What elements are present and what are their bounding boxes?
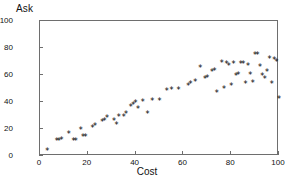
data-point xyxy=(151,99,154,102)
data-point xyxy=(275,60,278,63)
y-tick-mark xyxy=(39,155,43,156)
data-point xyxy=(136,107,139,110)
data-point xyxy=(46,149,49,152)
y-tick-label: 60 xyxy=(0,70,13,79)
data-point xyxy=(232,63,235,66)
data-point xyxy=(74,140,77,143)
data-point xyxy=(115,123,118,126)
x-tick-mark xyxy=(135,151,136,155)
y-tick-label: 100 xyxy=(0,16,13,25)
data-point xyxy=(141,101,144,104)
x-tick-label: 100 xyxy=(263,158,293,167)
data-point xyxy=(213,69,216,72)
data-point xyxy=(230,84,233,87)
data-point xyxy=(93,125,96,128)
data-point xyxy=(170,88,173,91)
data-point xyxy=(249,74,252,77)
data-point xyxy=(206,76,209,79)
x-tick-label: 60 xyxy=(167,158,197,167)
data-point xyxy=(242,63,245,66)
data-point xyxy=(165,90,168,93)
y-tick-label: 20 xyxy=(0,124,13,133)
x-tick-label: 80 xyxy=(215,158,245,167)
data-point xyxy=(237,74,240,77)
data-point xyxy=(177,88,180,91)
data-point xyxy=(263,78,266,81)
y-tick-mark xyxy=(39,128,43,129)
data-point xyxy=(67,133,70,136)
data-point xyxy=(223,87,226,90)
x-tick-mark xyxy=(230,151,231,155)
data-point xyxy=(278,98,281,101)
x-tick-mark xyxy=(39,151,40,155)
data-point xyxy=(158,99,161,102)
data-point xyxy=(270,83,273,86)
y-tick-mark xyxy=(39,101,43,102)
data-point xyxy=(117,115,120,118)
scatter-plot-figure: Ask Cost 020406080100020406080100 xyxy=(0,0,294,187)
x-tick-mark xyxy=(278,151,279,155)
data-point xyxy=(194,80,197,83)
y-tick-label: 40 xyxy=(0,97,13,106)
y-tick-label: 80 xyxy=(0,43,13,52)
plot-area xyxy=(39,20,278,155)
data-point xyxy=(227,64,230,67)
data-point xyxy=(266,71,269,74)
data-point xyxy=(256,53,259,56)
data-point xyxy=(60,138,63,141)
y-tick-mark xyxy=(39,74,43,75)
data-point xyxy=(220,61,223,64)
y-axis-label: Ask xyxy=(16,3,33,15)
y-tick-mark xyxy=(39,47,43,48)
data-point xyxy=(189,83,192,86)
data-point xyxy=(79,129,82,132)
x-tick-label: 40 xyxy=(120,158,150,167)
data-point xyxy=(258,65,261,68)
data-point xyxy=(146,113,149,116)
data-point xyxy=(125,113,128,116)
data-point xyxy=(268,57,271,60)
x-tick-mark xyxy=(87,151,88,155)
y-tick-label: 0 xyxy=(0,151,13,160)
data-point xyxy=(199,67,202,70)
x-axis-label: Cost xyxy=(0,166,294,177)
data-point xyxy=(251,82,254,85)
x-tick-mark xyxy=(182,151,183,155)
x-tick-label: 20 xyxy=(72,158,102,167)
x-tick-label: 0 xyxy=(24,158,54,167)
y-tick-mark xyxy=(39,20,43,21)
data-point xyxy=(215,91,218,94)
data-point xyxy=(244,83,247,86)
data-point xyxy=(105,117,108,120)
data-point xyxy=(84,136,87,139)
data-point xyxy=(246,64,249,67)
